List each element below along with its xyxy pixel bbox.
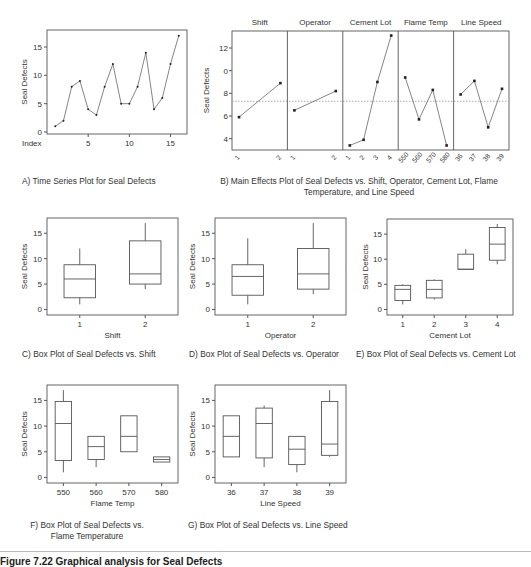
x-tick-label: 3 xyxy=(372,154,380,162)
box-plot-e: 051015Seal Defects1234Cement Lot xyxy=(361,219,513,340)
data-point xyxy=(170,63,172,65)
data-point xyxy=(390,34,393,37)
data-point xyxy=(459,93,462,96)
x-tick-label: 580 xyxy=(155,488,169,497)
y-tick-label: 5 xyxy=(206,448,211,457)
x-tick-label: 39 xyxy=(495,152,505,162)
caption-a: A) Time Series Plot for Seal Defects xyxy=(22,176,222,187)
y-tick-label: 10 xyxy=(373,255,382,264)
y-axis-label: Seal Defects xyxy=(20,244,29,289)
box xyxy=(232,265,263,295)
y-axis-label: Seal Defects xyxy=(20,411,29,456)
y-tick-label: 0 xyxy=(38,473,43,482)
data-point xyxy=(79,80,81,82)
box xyxy=(88,436,104,459)
x-tick-label: 2 xyxy=(432,320,437,329)
box xyxy=(64,265,95,298)
x-tick-label: 2 xyxy=(311,320,316,329)
data-point xyxy=(487,126,490,129)
y-tick-label: 0 xyxy=(206,305,211,314)
y-tick-label: 5 xyxy=(38,448,43,457)
y-axis-label: Seal Defects xyxy=(20,59,29,104)
y-tick-label: 0 xyxy=(378,305,383,314)
x-axis-label: Line Speed xyxy=(260,499,300,508)
data-point xyxy=(54,125,56,127)
box xyxy=(298,248,329,289)
data-point xyxy=(349,144,352,147)
data-point xyxy=(71,86,73,88)
box xyxy=(321,401,337,455)
box-plot-d: 051015Seal Defects12Operator xyxy=(188,218,346,340)
x-tick-label: 3 xyxy=(464,320,469,329)
x-tick-label: 550 xyxy=(57,488,71,497)
data-point xyxy=(153,108,155,110)
x-axis-label: Operator xyxy=(265,331,297,340)
x-tick-label: 36 xyxy=(454,152,464,162)
panel-title: Operator xyxy=(299,18,331,27)
box xyxy=(130,241,161,284)
y-tick-label: 5 xyxy=(38,280,43,289)
data-point xyxy=(161,97,163,99)
x-tick-label: 550 xyxy=(397,151,410,164)
effect-line xyxy=(461,81,502,127)
x-tick-label: 10 xyxy=(125,139,134,148)
main-effects-plot: 468012Seal DefectsShift12Operator12Cemen… xyxy=(202,18,509,164)
figure-divider xyxy=(0,551,531,552)
x-tick-label: 37 xyxy=(260,488,269,497)
data-point xyxy=(128,103,130,105)
y-tick-label: 15 xyxy=(33,229,42,238)
x-tick-label: 580 xyxy=(438,151,451,164)
y-tick-label: 5 xyxy=(38,100,43,109)
data-point xyxy=(335,90,338,93)
y-tick-label: 10 xyxy=(33,71,42,80)
x-tick-label: 560 xyxy=(89,488,103,497)
panel-title: Line Speed xyxy=(461,18,501,27)
effect-line xyxy=(294,91,335,110)
x-tick-label: 1 xyxy=(344,154,352,162)
data-point xyxy=(137,86,139,88)
y-tick-label: 0 xyxy=(224,67,229,76)
data-point xyxy=(418,118,421,121)
x-tick-label: 15 xyxy=(166,139,175,148)
x-tick-label: 2 xyxy=(143,320,148,329)
y-tick-label: 6 xyxy=(224,112,229,121)
caption-c: C) Box Plot of Seal Defects vs. Shift xyxy=(22,349,192,360)
data-point xyxy=(178,35,180,37)
effect-line xyxy=(405,77,446,145)
data-point xyxy=(104,86,106,88)
data-point xyxy=(279,82,282,85)
x-tick-label: 570 xyxy=(122,488,136,497)
x-tick-label: 4 xyxy=(385,154,393,162)
x-tick-label: 37 xyxy=(467,152,477,162)
caption-d: D) Box Plot of Seal Defects vs. Operator xyxy=(189,349,369,360)
caption-f: F) Box Plot of Seal Defects vs. Flame Te… xyxy=(22,520,152,542)
x-tick-label: 5 xyxy=(86,139,91,148)
data-point xyxy=(112,63,114,65)
x-tick-label: 2 xyxy=(358,154,366,162)
box-plot-f: 051015Seal Defects550560570580Flame Temp xyxy=(20,385,178,508)
y-tick-label: 15 xyxy=(33,396,42,405)
box-plot-g: 051015Seal Defects36373839Line Speed xyxy=(188,385,346,508)
box xyxy=(289,436,305,464)
data-point xyxy=(87,108,89,110)
data-point xyxy=(362,139,365,142)
box xyxy=(458,254,474,269)
x-tick-label: 1 xyxy=(233,154,241,162)
y-tick-label: 15 xyxy=(201,229,210,238)
y-tick-label: 10 xyxy=(201,255,210,264)
y-tick-label: 10 xyxy=(201,422,210,431)
data-point xyxy=(376,81,379,84)
x-tick-label: 1 xyxy=(401,320,406,329)
data-point xyxy=(62,120,64,122)
y-tick-label: 0 xyxy=(38,305,43,314)
x-axis-label: Shift xyxy=(104,331,121,340)
data-point xyxy=(404,76,407,79)
panel-title: Flame Temp xyxy=(404,18,448,27)
effect-line xyxy=(239,83,280,117)
y-tick-label: 0 xyxy=(206,473,211,482)
x-tick-label: 39 xyxy=(325,488,334,497)
caption-g: G) Box Plot of Seal Defects vs. Line Spe… xyxy=(188,520,368,531)
y-tick-label: 8 xyxy=(224,89,229,98)
y-tick-label: 12 xyxy=(219,44,228,53)
